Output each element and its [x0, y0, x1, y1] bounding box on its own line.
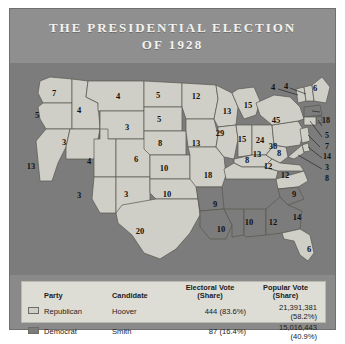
legend-party-republican: Republican: [44, 302, 112, 322]
state-vote-label: 3: [77, 190, 81, 200]
legend-body: Republican Hoover 444 (83.6%) 21,391,381…: [22, 302, 325, 342]
state-vote-label-callout: 14: [323, 152, 331, 161]
legend-party-democrat: Democrat: [44, 322, 112, 342]
state-MN: [182, 83, 218, 119]
state-KS: [150, 155, 190, 179]
title-band: THE PRESIDENTIAL ELECTION OF 1928: [10, 9, 335, 63]
poster-plate: THE PRESIDENTIAL ELECTION OF 1928: [9, 8, 336, 330]
state-vote-label: 15: [238, 134, 247, 144]
legend-panel: Party Candidate Electoral Vote (Share) P…: [21, 281, 326, 323]
state-vote-label: 6: [307, 244, 311, 254]
state-vote-label-callout: 3: [325, 163, 329, 172]
state-vote-label: 13: [192, 138, 201, 148]
legend-popular-republican: 21,391,381 (58.2%): [254, 302, 325, 322]
state-vote-label: 14: [293, 212, 302, 222]
state-vote-label: 13: [223, 106, 232, 116]
state-vote-label: 24: [256, 135, 265, 145]
state-vote-label: 12: [281, 170, 290, 180]
state-vote-label: 8: [245, 155, 249, 165]
state-vote-label: 6: [134, 154, 138, 164]
legend-swatch-cell: [22, 302, 44, 322]
state-vote-label: 8: [158, 138, 162, 148]
state-vote-label: 3: [62, 137, 66, 147]
state-vote-label: 5: [156, 90, 160, 100]
legend-header-electoral: Electoral Vote (Share): [174, 284, 254, 302]
state-vote-label-callout: 7: [325, 142, 329, 151]
state-vote-label: 3: [124, 189, 128, 199]
state-vote-label: 13: [253, 149, 262, 159]
legend-popular-democrat: 15,016,443 (40.9%): [254, 322, 325, 342]
state-vote-label: 38: [269, 141, 278, 151]
state-vote-label: 10: [245, 217, 254, 227]
state-NJ: [300, 127, 310, 143]
state-MO: [188, 147, 226, 187]
state-vote-label: 4: [284, 81, 288, 91]
state-OK: [150, 179, 198, 199]
state-vote-label: 12: [264, 161, 273, 171]
state-vote-label: 10: [160, 163, 169, 173]
map-svg: [10, 63, 335, 275]
legend-header-popular: Popular Vote (Share): [254, 284, 325, 302]
legend-header-candidate: Candidate: [112, 284, 174, 302]
state-AZ: [92, 177, 116, 213]
state-vote-label: 12: [192, 91, 201, 101]
state-vote-label: 8: [277, 148, 281, 158]
legend-electoral-republican: 444 (83.6%): [174, 302, 254, 322]
state-OR: [38, 103, 72, 129]
state-vote-label-callout: 5: [325, 131, 329, 140]
page-title-line-1: THE PRESIDENTIAL ELECTION: [49, 19, 296, 36]
legend-swatch-header: [22, 284, 44, 302]
table-row: Democrat Smith 87 (16.4%) 15,016,443 (40…: [22, 322, 325, 342]
state-vote-label: 15: [244, 100, 253, 110]
us-election-map: 7544331346335581010201213189101329151524…: [10, 63, 335, 275]
state-vote-label: 4: [87, 156, 91, 166]
state-vote-label: 4: [116, 91, 120, 101]
state-vote-label: 9: [213, 199, 217, 209]
state-vote-label: 29: [216, 128, 225, 138]
state-vote-label: 10: [217, 224, 226, 234]
state-vote-label: 9: [292, 189, 296, 199]
state-vote-label: 10: [163, 189, 172, 199]
state-vote-label: 18: [204, 170, 213, 180]
legend-header-electoral-l2: (Share): [174, 292, 246, 300]
state-vote-label: 12: [269, 217, 278, 227]
page-title-line-2: OF 1928: [142, 36, 204, 53]
legend-candidate-smith: Smith: [112, 322, 174, 342]
table-row: Republican Hoover 444 (83.6%) 21,391,381…: [22, 302, 325, 322]
state-vote-label: 5: [35, 110, 39, 120]
state-vote-label: 45: [272, 115, 281, 125]
democrat-color-swatch: [28, 327, 39, 334]
legend-candidate-hoover: Hoover: [112, 302, 174, 322]
state-vote-label-callout: 18: [322, 116, 330, 125]
state-vote-label: 7: [52, 88, 56, 98]
state-AR: [196, 187, 224, 211]
legend-table: Party Candidate Electoral Vote (Share) P…: [22, 284, 325, 342]
state-vote-label: 5: [157, 114, 161, 124]
state-vote-label: 3: [125, 122, 129, 132]
state-vote-label-callout: 8: [325, 174, 329, 183]
state-vote-label: 13: [27, 161, 36, 171]
republican-color-swatch: [28, 307, 39, 314]
infographic-root: THE PRESIDENTIAL ELECTION OF 1928: [0, 0, 345, 344]
state-vote-label: 20: [136, 226, 145, 236]
state-NE: [144, 131, 186, 155]
legend-header-popular-l2: (Share): [254, 292, 317, 300]
state-vote-label: 6: [313, 83, 317, 93]
state-TX: [116, 199, 200, 259]
state-ND: [144, 81, 182, 107]
legend-electoral-democrat: 87 (16.4%): [174, 322, 254, 342]
state-vote-label: 4: [77, 105, 81, 115]
legend-header-party: Party: [44, 284, 112, 302]
legend-header-row: Party Candidate Electoral Vote (Share) P…: [22, 284, 325, 302]
state-SD: [144, 107, 182, 131]
state-vote-label: 4: [271, 82, 275, 92]
legend-swatch-cell: [22, 322, 44, 342]
